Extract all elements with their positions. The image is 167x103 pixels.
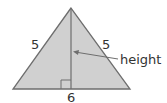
right-side-label: 5	[102, 37, 110, 52]
left-side-label: 5	[31, 37, 39, 52]
height-label: height	[120, 52, 161, 67]
triangle-diagram: 5 5 height 6	[0, 0, 167, 103]
base-label: 6	[67, 90, 75, 103]
